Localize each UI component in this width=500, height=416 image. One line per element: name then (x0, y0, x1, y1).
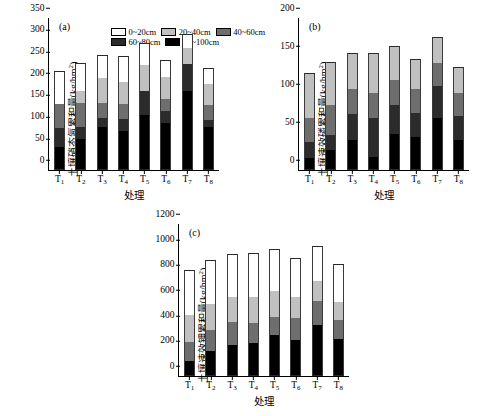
x-tick-c-T1: T1 (185, 376, 194, 392)
bar-segment-60-80cm (97, 118, 108, 127)
panel-c: (c) 土壤速效钾累积量(kg/hm2) 处理 0200400600800100… (128, 206, 378, 416)
x-axis-title-c: 处理 (179, 393, 349, 408)
y-tick-b-0: 0 (290, 156, 299, 166)
bar-a-T8[interactable] (203, 68, 214, 170)
bar-segment-80-100cm (304, 158, 315, 170)
bar-segment-40-60cm (54, 104, 65, 129)
bar-segment-40-60cm (325, 105, 336, 135)
legend-swatch-60-80cm (111, 38, 126, 46)
bar-segment-40-60cm (333, 320, 344, 339)
x-axis-title-b: 处理 (299, 187, 469, 202)
bar-segment-60-80cm (75, 127, 86, 140)
y-tick-a-100: 100 (30, 112, 49, 122)
bar-segment-0-20cm (118, 56, 129, 82)
bar-b-T6[interactable] (410, 59, 421, 170)
bar-segment-40-60cm (304, 118, 315, 142)
bar-segment-20-40cm (325, 62, 336, 105)
x-tick-a-T1: T1 (55, 170, 64, 186)
bar-segment-20-40cm (304, 73, 315, 118)
x-tick-c-T8: T8 (334, 376, 343, 392)
bar-b-T7[interactable] (432, 37, 443, 170)
bar-segment-80-100cm (269, 335, 280, 376)
bar-segment-40-60cm (269, 317, 280, 335)
bar-b-T3[interactable] (347, 53, 358, 170)
bar-c-T5[interactable] (269, 249, 280, 376)
panel-a: (a) 0~20cm 20~40cm 40~60cm (0, 0, 250, 208)
bar-b-T2[interactable] (325, 62, 336, 170)
bar-segment-20-40cm (248, 297, 259, 322)
bar-segment-0-20cm (139, 43, 150, 65)
bar-segment-40-60cm (312, 301, 323, 324)
bar-b-T4[interactable] (368, 53, 379, 170)
bar-a-T3[interactable] (97, 55, 108, 170)
bar-segment-80-100cm (54, 147, 65, 170)
bar-c-T3[interactable] (227, 254, 238, 376)
bar-segment-60-80cm (368, 118, 379, 158)
x-tick-c-T7: T7 (312, 376, 321, 392)
bar-a-T7[interactable] (182, 34, 193, 170)
bar-a-T2[interactable] (75, 63, 86, 170)
bar-segment-20-40cm (347, 53, 358, 89)
x-tick-b-T6: T6 (411, 170, 420, 186)
bar-segment-20-40cm (333, 302, 344, 320)
bar-segment-40-60cm (347, 89, 358, 113)
bar-segment-40-60cm (389, 80, 400, 106)
bar-a-T4[interactable] (118, 56, 129, 170)
bar-segment-40-60cm (118, 104, 129, 120)
bar-segment-80-100cm (290, 340, 301, 376)
bar-segment-80-100cm (160, 123, 171, 170)
x-tick-a-T8: T8 (204, 170, 213, 186)
bar-c-T7[interactable] (312, 246, 323, 376)
bar-segment-40-60cm (290, 318, 301, 340)
y-tick-a-50: 50 (35, 134, 49, 144)
bar-segment-80-100cm (453, 140, 464, 170)
bar-segment-0-20cm (160, 60, 171, 77)
bar-a-T1[interactable] (54, 71, 65, 170)
bar-segment-60-80cm (410, 113, 421, 137)
x-tick-a-T5: T5 (140, 170, 149, 186)
y-tick-c-200: 200 (160, 336, 179, 346)
bar-b-T5[interactable] (389, 46, 400, 170)
y-tick-a-300: 300 (30, 25, 49, 35)
bar-segment-80-100cm (333, 339, 344, 376)
bar-segment-60-80cm (347, 114, 358, 141)
bar-segment-20-40cm (160, 77, 171, 99)
y-tick-a-250: 250 (30, 47, 49, 57)
bar-c-T2[interactable] (205, 260, 216, 376)
bar-a-T6[interactable] (160, 60, 171, 170)
bar-segment-40-60cm (160, 99, 171, 111)
bar-segment-0-20cm (75, 63, 86, 91)
bar-segment-20-40cm (118, 82, 129, 104)
bar-b-T8[interactable] (453, 67, 464, 170)
bar-segment-40-60cm (227, 322, 238, 345)
bar-segment-0-20cm (248, 253, 259, 297)
y-tick-c-400: 400 (160, 311, 179, 321)
bar-segment-40-60cm (410, 89, 421, 113)
bar-segment-0-20cm (184, 270, 195, 316)
bar-segment-40-60cm (248, 323, 259, 344)
bar-segment-80-100cm (75, 139, 86, 170)
bar-segment-20-40cm (389, 46, 400, 79)
bar-c-T6[interactable] (290, 258, 301, 376)
x-tick-b-T5: T5 (390, 170, 399, 186)
bar-c-T4[interactable] (248, 253, 259, 376)
bar-segment-60-80cm (453, 116, 464, 140)
bar-segment-20-40cm (97, 78, 108, 102)
bar-segment-40-60cm (75, 103, 86, 127)
bar-c-T1[interactable] (184, 270, 195, 376)
bar-segment-0-20cm (203, 68, 214, 85)
bar-segment-80-100cm (118, 131, 129, 170)
plot-area-b: (b) 土壤速效磷累积量(kg/hm2) 处理 050100150200T1T2… (298, 18, 469, 171)
x-tick-b-T4: T4 (369, 170, 378, 186)
legend-swatch-0-20cm (111, 28, 126, 36)
x-tick-b-T3: T3 (347, 170, 356, 186)
bar-segment-40-60cm (453, 93, 464, 116)
bar-a-T5[interactable] (139, 43, 150, 170)
bar-segment-20-40cm (290, 297, 301, 318)
bar-segment-80-100cm (227, 345, 238, 376)
bar-segment-20-40cm (203, 84, 214, 105)
plot-area-c: (c) 土壤速效钾累积量(kg/hm2) 处理 0200400600800100… (178, 224, 349, 377)
x-axis-title-a: 处理 (49, 187, 219, 202)
bar-b-T1[interactable] (304, 73, 315, 170)
bar-c-T8[interactable] (333, 264, 344, 376)
